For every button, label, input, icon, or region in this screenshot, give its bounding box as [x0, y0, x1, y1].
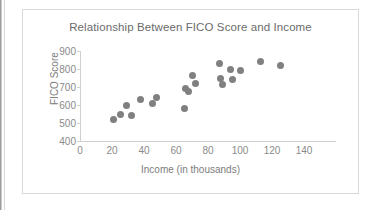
data-point	[237, 67, 244, 74]
y-tick-label-500: 500	[59, 118, 76, 129]
data-point	[185, 88, 192, 95]
data-point	[123, 102, 130, 109]
x-tick-label-60: 60	[170, 145, 181, 156]
y-tick-mark-500	[77, 123, 80, 124]
data-point	[189, 72, 196, 79]
data-point	[219, 81, 226, 88]
y-tick-label-700: 700	[59, 82, 76, 93]
data-point	[216, 60, 223, 67]
data-point	[192, 80, 199, 87]
data-point	[277, 62, 284, 69]
page-edge-shadow	[0, 0, 2, 210]
y-tick-label-400: 400	[59, 136, 76, 147]
x-tick-label-20: 20	[106, 145, 117, 156]
x-axis-line	[80, 141, 336, 142]
chart-title: Relationship Between FICO Score and Inco…	[23, 21, 358, 33]
data-point	[153, 94, 160, 101]
data-point	[149, 100, 156, 107]
y-tick-mark-700	[77, 87, 80, 88]
y-tick-mark-900	[77, 51, 80, 52]
x-tick-label-140: 140	[296, 145, 313, 156]
x-tick-label-0: 0	[77, 145, 83, 156]
y-tick-label-800: 800	[59, 64, 76, 75]
y-tick-mark-600	[77, 105, 80, 106]
data-point	[110, 116, 117, 123]
y-tick-label-900: 900	[59, 46, 76, 57]
y-tick-mark-800	[77, 69, 80, 70]
data-point	[227, 66, 234, 73]
x-tick-label-40: 40	[138, 145, 149, 156]
x-tick-label-80: 80	[202, 145, 213, 156]
x-tick-label-100: 100	[232, 145, 249, 156]
data-point	[229, 76, 236, 83]
chart-container: Relationship Between FICO Score and Inco…	[22, 9, 359, 194]
x-tick-label-120: 120	[264, 145, 281, 156]
x-axis-title: Income (in thousands)	[23, 164, 358, 175]
y-tick-label-600: 600	[59, 100, 76, 111]
data-point	[128, 112, 135, 119]
y-axis-title: FICO Score	[49, 52, 60, 105]
data-point	[117, 111, 124, 118]
plot-area: 400500600700800900 020406080100120140	[80, 51, 336, 141]
data-point	[137, 96, 144, 103]
y-axis-line	[80, 51, 81, 141]
data-point	[181, 105, 188, 112]
data-point	[257, 58, 264, 65]
y-tick-mark-400	[77, 141, 80, 142]
page-edge-line	[4, 0, 5, 210]
